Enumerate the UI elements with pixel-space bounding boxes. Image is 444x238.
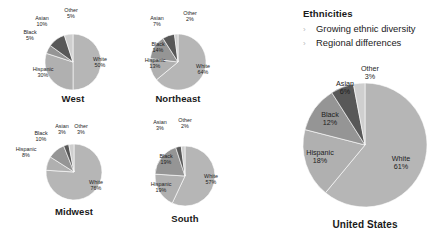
slice-label-percent: 2% bbox=[183, 17, 196, 23]
ethnicities-text-block: Ethnicities › Growing ethnic diversity ›… bbox=[303, 8, 443, 51]
slice-label-name: Other bbox=[64, 7, 77, 13]
slice-label-percent: 3% bbox=[74, 130, 87, 136]
slice-label-south-asian: Asian3% bbox=[153, 120, 167, 131]
pie-chart-south: South bbox=[153, 144, 217, 208]
pie-chart-midwest: Midwest bbox=[44, 142, 104, 202]
bullet-item-regional-differences: › Regional differences bbox=[303, 37, 443, 48]
slice-label-west-other: Other5% bbox=[64, 8, 77, 20]
pie-slice-white bbox=[73, 34, 101, 90]
slice-label-name: Asian bbox=[55, 123, 69, 129]
pie-title-midwest: Midwest bbox=[44, 206, 104, 217]
slice-label-name: Other bbox=[361, 64, 379, 73]
slice-label-south-other: Other2% bbox=[178, 118, 191, 129]
slice-label-percent: 2% bbox=[178, 124, 191, 130]
slice-label-percent: 10% bbox=[35, 22, 49, 28]
slice-label-name: Other bbox=[74, 123, 87, 129]
slice-label-name: Other bbox=[178, 117, 191, 123]
pie-chart-united-states: United States bbox=[301, 81, 429, 209]
slice-label-percent: 5% bbox=[23, 36, 36, 42]
slice-label-midwest-other: Other3% bbox=[74, 124, 87, 135]
slice-label-percent: 5% bbox=[64, 14, 77, 20]
slice-label-midwest-hispanic: Hispanic8% bbox=[16, 147, 37, 159]
chevron-right-icon: › bbox=[303, 40, 316, 48]
slice-label-name: Other bbox=[183, 10, 196, 16]
slice-label-percent: 7% bbox=[150, 22, 164, 28]
pie-title-west: West bbox=[43, 93, 103, 104]
pie-slices bbox=[148, 32, 208, 92]
slice-label-percent: 3% bbox=[55, 130, 69, 136]
slice-label-percent: 3% bbox=[153, 126, 167, 132]
bullet-item-growing-diversity: › Growing ethnic diversity bbox=[303, 23, 443, 34]
pie-chart-west: West bbox=[43, 32, 103, 92]
slice-label-name: Hispanic bbox=[16, 146, 37, 152]
pie-slices bbox=[44, 142, 104, 202]
pie-slices bbox=[301, 81, 429, 209]
slice-label-northeast-other: Other2% bbox=[183, 11, 196, 23]
slice-label-midwest-asian: Asian3% bbox=[55, 124, 69, 135]
pie-chart-northeast: Northeast bbox=[148, 32, 208, 92]
slice-label-west-asian: Asian10% bbox=[35, 16, 49, 28]
slice-label-name: Asian bbox=[150, 15, 164, 21]
bullet-label: Regional differences bbox=[316, 37, 401, 48]
slide-canvas: WestNortheastMidwestSouthUnited States E… bbox=[0, 0, 444, 238]
slice-label-percent: 3% bbox=[361, 73, 379, 81]
slice-label-name: Asian bbox=[153, 119, 167, 125]
slice-label-name: Black bbox=[34, 130, 47, 136]
slice-label-northeast-asian: Asian7% bbox=[150, 16, 164, 28]
slice-label-united-states-other: Other3% bbox=[361, 65, 379, 81]
bullet-label: Growing ethnic diversity bbox=[316, 23, 416, 34]
pie-title-northeast: Northeast bbox=[148, 93, 208, 104]
pie-slices bbox=[153, 144, 217, 208]
pie-slices bbox=[43, 32, 103, 92]
slice-label-west-black: Black5% bbox=[23, 30, 36, 42]
ethnicities-heading: Ethnicities bbox=[303, 8, 443, 19]
slice-label-name: Asian bbox=[35, 15, 49, 21]
chevron-right-icon: › bbox=[303, 26, 316, 34]
pie-title-united-states: United States bbox=[301, 219, 429, 230]
slice-label-name: Black bbox=[23, 29, 36, 35]
pie-title-south: South bbox=[153, 213, 217, 224]
slice-label-percent: 8% bbox=[16, 153, 37, 159]
